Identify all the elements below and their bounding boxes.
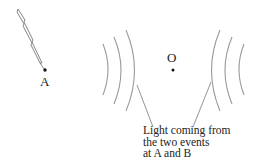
caption-line-1: Light coming from	[143, 125, 231, 137]
point-a-label: A	[40, 75, 49, 88]
point-a-dot	[43, 68, 46, 71]
leader-lines	[137, 82, 211, 127]
caption-line-3: at A and B	[143, 148, 231, 160]
point-o-dot	[172, 69, 175, 72]
left-wavefronts	[103, 30, 135, 111]
right-wavefronts	[212, 30, 245, 111]
diagram: A O Light coming from the two events at …	[0, 0, 278, 164]
lightning-bolt-icon	[17, 9, 44, 69]
point-o-label: O	[167, 51, 176, 64]
caption: Light coming from the two events at A an…	[143, 125, 231, 160]
